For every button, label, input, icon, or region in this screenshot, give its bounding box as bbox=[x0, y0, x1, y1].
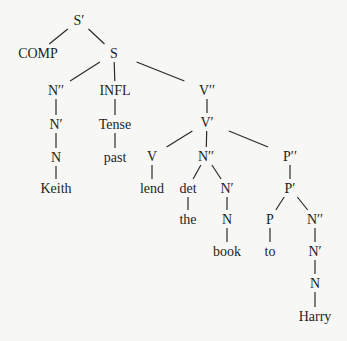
tree-node-sbar: S′ bbox=[74, 13, 85, 28]
tree-edge-s-infl bbox=[114, 62, 115, 81]
tree-node-np3: N′′ bbox=[307, 212, 323, 227]
tree-edge-s-vp bbox=[137, 62, 185, 81]
tree-node-n2: N bbox=[222, 212, 232, 227]
tree-edge-vbar-pp bbox=[229, 131, 268, 147]
syntax-tree-diagram: S′COMPSN′′INFLV′′N′TenseV′NpastVN′′P′′Ke… bbox=[0, 0, 347, 341]
tree-node-lend: lend bbox=[140, 181, 164, 196]
tree-node-nbar2: N′ bbox=[220, 181, 233, 196]
tree-node-pbar: P′ bbox=[285, 181, 296, 196]
tree-node-n1: N bbox=[51, 150, 61, 165]
tree-node-the: the bbox=[179, 212, 196, 227]
tree-node-n3: N bbox=[310, 276, 320, 291]
tree-edge-sbar-s bbox=[89, 29, 105, 44]
tree-edge-sbar-comp bbox=[49, 29, 68, 44]
tree-node-keith: Keith bbox=[40, 181, 71, 196]
tree-node-harry: Harry bbox=[299, 309, 332, 324]
tree-node-nbar1: N′ bbox=[49, 117, 62, 132]
tree-node-tense: Tense bbox=[99, 117, 131, 132]
tree-node-pp: P′′ bbox=[283, 149, 297, 164]
tree-edge-np2-nbar2 bbox=[212, 165, 221, 179]
tree-nodes: S′COMPSN′′INFLV′′N′TenseV′NpastVN′′P′′Ke… bbox=[18, 13, 331, 324]
tree-node-nbar3: N′ bbox=[308, 244, 321, 259]
tree-node-infl: INFL bbox=[99, 83, 130, 98]
tree-edge-vbar-v bbox=[167, 131, 193, 147]
tree-node-comp: COMP bbox=[18, 46, 58, 61]
tree-node-past: past bbox=[104, 150, 127, 165]
tree-node-np2: N′′ bbox=[198, 149, 214, 164]
tree-node-det: det bbox=[179, 181, 196, 196]
tree-edge-pbar-np3 bbox=[297, 197, 307, 210]
tree-node-np: N′′ bbox=[48, 83, 64, 98]
tree-node-s: S bbox=[110, 46, 118, 61]
tree-node-to: to bbox=[265, 244, 276, 259]
tree-node-vp: V′′ bbox=[199, 83, 215, 98]
tree-edges bbox=[49, 29, 315, 307]
tree-edge-np2-det bbox=[193, 165, 201, 179]
tree-edge-s-np bbox=[70, 62, 100, 81]
tree-edge-pbar-p bbox=[276, 197, 284, 210]
tree-node-p: P bbox=[266, 212, 274, 227]
tree-node-v: V bbox=[147, 149, 157, 164]
tree-node-book: book bbox=[213, 244, 241, 259]
tree-node-vbar: V′ bbox=[200, 115, 213, 130]
